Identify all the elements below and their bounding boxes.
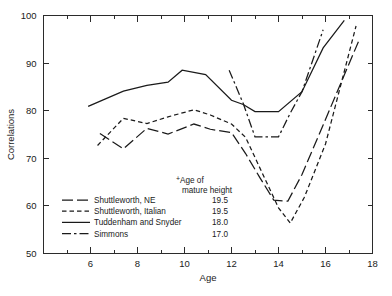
x-axis-title: Age bbox=[200, 272, 217, 283]
legend-value: 19.5 bbox=[212, 207, 228, 216]
y-tick-label: 100 bbox=[21, 10, 37, 21]
chart-background bbox=[0, 0, 392, 296]
y-tick-label: 80 bbox=[26, 105, 37, 116]
legend-header-line2: mature height bbox=[182, 186, 233, 195]
legend-label: Simmons bbox=[94, 230, 128, 239]
x-tick-label: 18 bbox=[367, 258, 378, 269]
y-tick-label: 70 bbox=[26, 153, 37, 164]
legend-value: 19.5 bbox=[212, 196, 228, 205]
x-tick-label: 14 bbox=[273, 258, 284, 269]
y-tick-label: 90 bbox=[26, 58, 37, 69]
y-axis-title: Correlations bbox=[5, 109, 16, 160]
legend-label: Shuttleworth, NE bbox=[94, 196, 156, 205]
legend-value: 17.0 bbox=[212, 230, 228, 239]
x-tick-label: 12 bbox=[226, 258, 237, 269]
legend-label: Tuddenham and Snyder bbox=[94, 218, 182, 227]
x-tick-label: 16 bbox=[320, 258, 331, 269]
legend-header-line1: Age of bbox=[180, 176, 204, 185]
x-tick-label: 8 bbox=[135, 258, 140, 269]
y-tick-label: 50 bbox=[26, 248, 37, 259]
correlations-line-chart: 5060708090100 681012141618 Correlations … bbox=[0, 0, 392, 296]
legend-value: 18.0 bbox=[212, 218, 228, 227]
chart-figure: 5060708090100 681012141618 Correlations … bbox=[0, 0, 392, 296]
legend-label: Shuttleworth, Italian bbox=[94, 207, 166, 216]
x-tick-label: 6 bbox=[88, 258, 93, 269]
x-tick-label: 10 bbox=[179, 258, 190, 269]
y-tick-label: 60 bbox=[26, 200, 37, 211]
